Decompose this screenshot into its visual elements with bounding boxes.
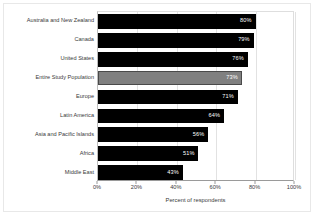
gridline: [295, 12, 296, 180]
bar-row: Asia and Pacific Islands56%: [98, 127, 293, 142]
bar-value-label: 80%: [240, 19, 252, 25]
bar-value-label: 79%: [238, 38, 250, 44]
bar-row: Canada79%: [98, 33, 293, 48]
bar-value-label: 56%: [193, 132, 205, 138]
bar-value-label: 71%: [222, 94, 234, 100]
bar: [98, 109, 224, 124]
bar-rows: Australia and New Zealand80%Canada79%Uni…: [98, 12, 293, 180]
bar: [98, 33, 254, 48]
bar-chart: Australia and New Zealand80%Canada79%Uni…: [0, 0, 315, 217]
x-tick-label: 40%: [170, 181, 181, 191]
category-label: Middle East: [65, 170, 94, 176]
bar-value-label: 43%: [167, 170, 179, 176]
category-label: Latin America: [60, 113, 94, 119]
bar: [98, 90, 238, 105]
bar-value-label: 64%: [209, 113, 221, 119]
x-tick-label: 0%: [93, 181, 101, 191]
bar-row: United States76%: [98, 52, 293, 67]
bar-row: Europe71%: [98, 90, 293, 105]
bar-row: Africa51%: [98, 146, 293, 161]
category-label: Australia and New Zealand: [27, 19, 94, 25]
x-tick-label: 60%: [210, 181, 221, 191]
x-tick-label: 100%: [287, 181, 301, 191]
bar-row: Australia and New Zealand80%: [98, 14, 293, 29]
bar-value-label: 51%: [183, 151, 195, 157]
bar-value-label: 76%: [232, 56, 244, 62]
bar-row: Entire Study Population73%: [98, 71, 293, 86]
bar: [98, 71, 242, 86]
bar-row: Latin America64%: [98, 109, 293, 124]
x-tick-label: 20%: [131, 181, 142, 191]
bar: [98, 127, 208, 142]
bar: [98, 52, 248, 67]
category-label: Canada: [74, 38, 94, 44]
category-label: Asia and Pacific Islands: [35, 132, 94, 138]
x-axis-label: Percent of respondents: [97, 198, 294, 204]
bar: [98, 14, 256, 29]
bar-value-label: 73%: [226, 75, 238, 81]
x-axis-ticks: 0%20%40%60%80%100%: [97, 181, 294, 193]
bar-row: Middle East43%: [98, 165, 293, 180]
category-label: Africa: [80, 151, 94, 157]
category-label: Europe: [76, 94, 94, 100]
category-label: United States: [60, 56, 94, 62]
category-label: Entire Study Population: [36, 75, 94, 81]
plot-area: Australia and New Zealand80%Canada79%Uni…: [97, 11, 294, 181]
x-tick-label: 80%: [249, 181, 260, 191]
